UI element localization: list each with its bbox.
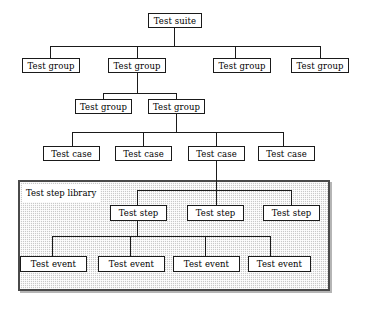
event-drop-4 — [270, 236, 271, 256]
test-event-level-node[interactable]: Test event — [20, 256, 87, 272]
test-event-level-node[interactable]: Test event — [248, 256, 311, 272]
test-step-library-label: Test step library — [22, 184, 100, 202]
suite-stem-down — [174, 28, 175, 46]
step-drop-1 — [137, 190, 138, 205]
test-step-level-node[interactable]: Test step — [187, 205, 244, 221]
test-group-level-1-node[interactable]: Test group — [22, 58, 80, 73]
event-drop-2 — [130, 236, 131, 256]
test-group-level-2-node[interactable]: Test group — [75, 99, 132, 114]
case-drop-2 — [143, 132, 144, 146]
test-group-level-2-node[interactable]: Test group — [148, 99, 205, 114]
event-bus — [52, 236, 270, 237]
test-event-level-node[interactable]: Test event — [98, 256, 165, 272]
group1-drop-2 — [137, 46, 138, 58]
test-case-level-node[interactable]: Test case — [188, 146, 245, 161]
group2b-stem-down — [176, 114, 177, 132]
event-drop-1 — [52, 236, 53, 256]
step-drop-3 — [291, 190, 292, 205]
group1-drop-1 — [50, 46, 51, 58]
case-drop-3 — [216, 132, 217, 146]
test-case-level-node[interactable]: Test case — [115, 146, 172, 161]
test-event-level-node[interactable]: Test event — [173, 256, 240, 272]
test-group-level-1-node[interactable]: Test group — [213, 58, 271, 73]
group1-bus — [50, 46, 320, 47]
test-step-level-node[interactable]: Test step — [263, 205, 320, 221]
group1-drop-3 — [235, 46, 236, 58]
diagram-canvas: Test step library Test suiteTest groupTe… — [0, 0, 365, 311]
group2-bus — [103, 93, 177, 94]
step-bus — [137, 190, 291, 191]
test-step-level-node[interactable]: Test step — [110, 205, 167, 221]
step1-stem-down — [137, 221, 138, 236]
test-group-level-1-node[interactable]: Test group — [291, 58, 349, 73]
test-suite-node[interactable]: Test suite — [148, 13, 202, 28]
test-case-level-node[interactable]: Test case — [43, 146, 100, 161]
event-drop-3 — [205, 236, 206, 256]
group1b-stem-down — [137, 73, 138, 93]
test-group-level-1-node[interactable]: Test group — [108, 58, 166, 73]
test-case-level-node[interactable]: Test case — [258, 146, 315, 161]
case-drop-1 — [72, 132, 73, 146]
group1-drop-4 — [320, 46, 321, 58]
case-drop-4 — [283, 132, 284, 146]
case3-stem-into-panel — [216, 161, 217, 205]
case-bus — [72, 132, 283, 133]
